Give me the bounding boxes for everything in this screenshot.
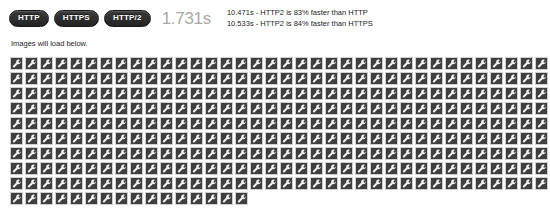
image-tile xyxy=(130,147,143,160)
image-tile xyxy=(505,102,518,115)
image-tile xyxy=(505,72,518,85)
image-tile xyxy=(520,147,533,160)
image-tile xyxy=(115,147,128,160)
image-tile xyxy=(235,57,248,70)
image-tile xyxy=(535,72,548,85)
image-tile xyxy=(370,102,383,115)
image-tile xyxy=(475,87,488,100)
image-tile xyxy=(145,162,158,175)
image-tile xyxy=(325,72,338,85)
toolbar: HTTP HTTPS HTTP/2 1.731s 10.471s - HTTP2… xyxy=(0,0,550,36)
image-tile xyxy=(70,87,83,100)
image-tile xyxy=(400,72,413,85)
image-tile xyxy=(400,177,413,190)
grid-caption: Images will load below. xyxy=(11,39,88,49)
image-tile xyxy=(160,102,173,115)
image-tile xyxy=(220,177,233,190)
image-tile xyxy=(415,102,428,115)
image-tile xyxy=(55,132,68,145)
browser-page: HTTP HTTPS HTTP/2 1.731s 10.471s - HTTP2… xyxy=(0,0,550,208)
image-tile xyxy=(40,102,53,115)
image-tile xyxy=(385,162,398,175)
image-tile xyxy=(400,147,413,160)
image-tile xyxy=(445,87,458,100)
image-tile xyxy=(115,87,128,100)
image-tile xyxy=(355,102,368,115)
image-tile xyxy=(265,57,278,70)
load-timer-value: 1.731s xyxy=(162,10,211,27)
image-tile xyxy=(445,177,458,190)
image-tile xyxy=(70,162,83,175)
image-tile xyxy=(55,147,68,160)
image-tile xyxy=(400,57,413,70)
image-tile xyxy=(265,117,278,130)
image-tile xyxy=(220,87,233,100)
image-tile xyxy=(25,177,38,190)
image-tile xyxy=(490,72,503,85)
image-tile xyxy=(205,177,218,190)
image-tile xyxy=(325,117,338,130)
image-tile xyxy=(505,57,518,70)
image-tile xyxy=(250,162,263,175)
image-tile xyxy=(190,162,203,175)
image-tile xyxy=(280,72,293,85)
http-button[interactable]: HTTP xyxy=(9,10,49,27)
image-tile xyxy=(400,132,413,145)
image-tile xyxy=(490,87,503,100)
image-tile xyxy=(130,177,143,190)
image-tile xyxy=(220,117,233,130)
image-tile xyxy=(205,87,218,100)
image-tile xyxy=(535,57,548,70)
image-tile xyxy=(205,162,218,175)
image-tile xyxy=(40,57,53,70)
image-tile xyxy=(160,192,173,205)
image-tile xyxy=(445,102,458,115)
image-tile xyxy=(190,117,203,130)
image-tile xyxy=(250,102,263,115)
http2-button[interactable]: HTTP/2 xyxy=(104,10,151,27)
image-tile xyxy=(175,57,188,70)
image-tile xyxy=(10,147,23,160)
image-tile xyxy=(175,192,188,205)
image-tile xyxy=(40,147,53,160)
image-tile xyxy=(475,117,488,130)
image-tile xyxy=(40,87,53,100)
image-tile xyxy=(385,87,398,100)
image-tile xyxy=(385,102,398,115)
image-tile xyxy=(490,117,503,130)
image-tile xyxy=(415,132,428,145)
image-tile xyxy=(535,87,548,100)
image-tile xyxy=(25,147,38,160)
image-tile xyxy=(190,132,203,145)
image-tile xyxy=(10,117,23,130)
image-tile xyxy=(355,147,368,160)
image-tile xyxy=(85,117,98,130)
image-tile xyxy=(160,117,173,130)
image-tile xyxy=(355,57,368,70)
image-tile xyxy=(370,162,383,175)
protocol-button-group: HTTP HTTPS HTTP/2 xyxy=(9,10,151,27)
image-tile xyxy=(25,117,38,130)
image-tile xyxy=(10,132,23,145)
image-tile xyxy=(520,57,533,70)
image-tile xyxy=(505,117,518,130)
image-tile xyxy=(115,57,128,70)
image-tile xyxy=(115,177,128,190)
image-tile xyxy=(415,57,428,70)
image-tile xyxy=(475,147,488,160)
image-tile xyxy=(340,132,353,145)
image-tile xyxy=(295,87,308,100)
image-tile xyxy=(160,177,173,190)
https-button[interactable]: HTTPS xyxy=(54,10,99,27)
image-tile xyxy=(280,147,293,160)
image-tile xyxy=(25,72,38,85)
image-tile xyxy=(460,72,473,85)
image-tile xyxy=(370,177,383,190)
image-tile xyxy=(445,132,458,145)
image-tile xyxy=(490,147,503,160)
image-tile xyxy=(100,72,113,85)
image-tile xyxy=(100,162,113,175)
image-tile xyxy=(85,162,98,175)
image-tile xyxy=(115,102,128,115)
image-tile xyxy=(205,147,218,160)
